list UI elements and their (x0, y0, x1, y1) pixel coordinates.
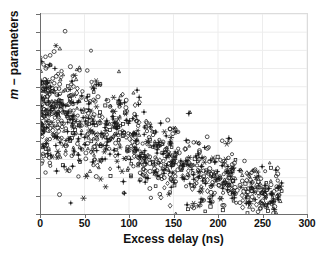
data-point-circle (222, 173, 225, 176)
data-point-circle (224, 163, 228, 167)
y-tick (36, 214, 40, 215)
data-point-triangle (76, 107, 79, 110)
data-point-plus (107, 152, 112, 157)
data-point-circle (124, 106, 128, 110)
data-point-plus (48, 84, 53, 89)
data-point-circle (54, 74, 58, 78)
data-point-triangle (58, 47, 61, 50)
data-point-square (265, 181, 268, 184)
data-point-circle (92, 163, 95, 166)
data-point-star (187, 155, 193, 160)
data-point-plus (269, 192, 275, 198)
data-point-square (130, 162, 133, 165)
data-point-circle (53, 116, 56, 119)
data-point-star (94, 104, 100, 109)
y-tick (36, 14, 40, 15)
data-point-plus (68, 201, 73, 206)
data-point-plus (52, 66, 57, 71)
data-point-triangle (118, 142, 121, 144)
data-point-circle (96, 95, 100, 99)
data-point-circle (124, 98, 128, 102)
data-point-circle (240, 179, 244, 183)
data-point-circle (148, 187, 152, 191)
data-point-circle (68, 65, 72, 69)
data-point-circle (60, 125, 63, 128)
data-point-plus (158, 120, 164, 126)
data-point-diamond (272, 189, 276, 194)
data-point-plus (53, 168, 59, 174)
data-point-triangle (86, 147, 89, 150)
data-point-circle (77, 175, 80, 178)
data-point-circle (52, 50, 56, 54)
data-point-circle (259, 177, 263, 181)
data-point-triangle (62, 73, 65, 76)
data-point-square (209, 205, 212, 208)
data-point-plus (78, 131, 84, 137)
data-point-star (117, 145, 122, 150)
data-point-circle (84, 151, 88, 155)
data-point-star (53, 43, 58, 48)
data-point-circle (44, 55, 48, 59)
data-point-circle (264, 170, 267, 173)
data-point-circle (166, 118, 170, 122)
data-point-plus (268, 191, 274, 197)
data-point-circle (220, 139, 224, 143)
data-point-star (195, 203, 201, 208)
data-point-diamond (168, 203, 172, 208)
y-tick (36, 123, 40, 124)
x-tick-label: 150 (165, 217, 182, 229)
x-axis-title: Excess delay (ns) (40, 232, 307, 246)
data-point-circle (63, 29, 67, 33)
data-point-circle (243, 159, 247, 163)
data-point-square (266, 209, 269, 212)
axis-right-spine (307, 13, 308, 215)
y-axis-line (40, 13, 41, 215)
data-point-circle (94, 175, 98, 179)
data-point-circle (269, 183, 273, 187)
data-point-circle (173, 171, 176, 174)
data-point-circle (84, 157, 88, 161)
data-point-circle (48, 53, 52, 57)
data-point-circle (64, 127, 67, 130)
data-point-plus (76, 152, 82, 158)
data-point-circle (44, 171, 47, 174)
data-point-circle (195, 164, 198, 167)
y-axis-title-variable: m (7, 89, 21, 100)
data-point-square (234, 159, 237, 162)
data-point-plus (134, 87, 140, 93)
data-point-star (224, 141, 231, 147)
data-point-plus (153, 129, 159, 135)
data-point-circle (148, 158, 151, 161)
data-point-plus (142, 179, 147, 184)
axis-top-spine (40, 13, 308, 14)
data-point-plus (110, 114, 116, 120)
y-tick (36, 178, 40, 179)
data-point-diamond (254, 202, 258, 207)
data-point-star (222, 157, 228, 162)
data-point-triangle (188, 145, 191, 147)
data-point-circle (205, 135, 209, 139)
data-point-plus (259, 164, 265, 170)
y-tick (36, 196, 40, 197)
data-point-square (187, 208, 190, 211)
data-point-circle (92, 113, 96, 117)
data-point-circle (76, 142, 80, 146)
data-point-plus (210, 193, 216, 199)
data-point-diamond (241, 205, 245, 210)
data-point-square (173, 184, 176, 187)
x-tick-label: 100 (121, 217, 138, 229)
data-point-circle (162, 159, 165, 162)
data-point-triangle (241, 173, 244, 176)
data-point-plus (202, 145, 207, 150)
y-axis-title-rest: − parameters (7, 10, 21, 88)
data-point-square (221, 209, 224, 212)
data-point-triangle (195, 141, 198, 144)
data-point-circle (76, 114, 79, 117)
data-point-square (67, 85, 70, 88)
data-point-circle (58, 82, 62, 86)
y-tick (36, 105, 40, 106)
data-point-circle (221, 191, 224, 194)
data-point-circle (127, 132, 130, 135)
x-tick-label: 50 (79, 217, 90, 229)
data-point-star (114, 159, 119, 164)
